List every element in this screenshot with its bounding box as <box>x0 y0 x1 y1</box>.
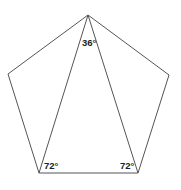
triangle-left-side <box>39 15 88 173</box>
pentagon-diagram: 36° 72° 72° <box>0 0 181 190</box>
bottom-left-angle-label: 72° <box>44 160 59 171</box>
bottom-right-angle-label: 72° <box>120 160 135 171</box>
apex-angle-label: 36° <box>82 37 97 48</box>
